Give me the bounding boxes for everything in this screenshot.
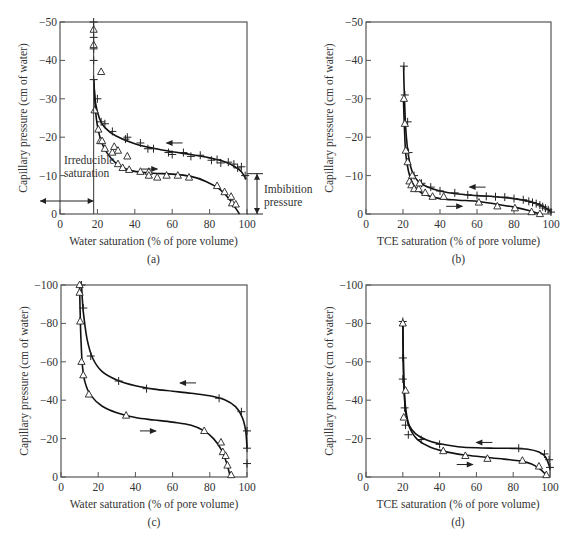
arrowhead-up-icon <box>254 174 260 180</box>
plus-marker <box>237 408 245 416</box>
y-tick-label: −60 <box>345 356 363 368</box>
annotation-text: Imbibition <box>264 183 313 195</box>
triangle-marker <box>163 172 170 179</box>
x-tick-label: 60 <box>471 481 483 493</box>
arrowhead-left-icon <box>166 140 173 146</box>
series-drainage <box>399 317 554 471</box>
x-tick-label: 80 <box>204 218 216 230</box>
y-axis-label: Capillary pressure (cm of water) <box>323 43 336 193</box>
panel-label: (c) <box>148 516 161 529</box>
y-tick-label: −80 <box>40 317 58 329</box>
plus-marker <box>436 440 444 448</box>
y-axis-label: Capillary pressure (cm of water) <box>323 306 336 456</box>
plus-marker <box>243 427 251 435</box>
plus-marker <box>510 195 518 203</box>
triangle-marker <box>124 152 131 159</box>
annotation-irreducible-saturation: Irreduciblesaturation <box>40 22 114 214</box>
x-tick-label: 100 <box>238 218 256 230</box>
x-tick-label: 80 <box>508 218 520 230</box>
x-tick-label: 80 <box>204 481 216 493</box>
plus-marker <box>473 192 481 200</box>
plus-marker <box>101 120 109 128</box>
plus-marker <box>115 377 123 385</box>
y-tick-label: −30 <box>39 93 57 105</box>
capillary-pressure-figure: 0204060801000−10−20−30−40−50Water satura… <box>0 0 573 536</box>
y-tick-label: −50 <box>39 16 57 28</box>
arrowhead-right-icon <box>467 462 474 468</box>
plus-marker <box>243 444 251 452</box>
chart-panel-c: 0204060801000−20−40−60−80−100Water satur… <box>18 279 256 529</box>
triangle-marker <box>95 126 102 133</box>
y-tick-label: −30 <box>345 93 363 105</box>
x-tick-label: 60 <box>167 481 179 493</box>
arrowhead-right-icon <box>88 198 94 204</box>
plus-marker <box>482 192 490 200</box>
arrowhead-left-icon <box>469 184 476 190</box>
y-tick-label: 0 <box>357 208 363 220</box>
x-tick-label: 60 <box>166 218 178 230</box>
x-tick-label: 20 <box>397 218 409 230</box>
fitted-curve <box>403 323 547 477</box>
panel-label: (b) <box>452 253 466 266</box>
triangle-marker <box>80 371 87 378</box>
y-tick-label: −20 <box>39 131 57 143</box>
x-tick-label: 100 <box>541 481 559 493</box>
y-tick-label: −20 <box>345 433 363 445</box>
plus-marker <box>529 198 537 206</box>
x-axis-label: Water saturation (% of pore volume) <box>69 235 238 248</box>
plus-marker <box>519 196 527 204</box>
series-imbibition <box>76 281 235 478</box>
triangle-marker <box>440 193 447 200</box>
triangle-marker <box>85 390 92 397</box>
arrowhead-left-icon <box>40 198 46 204</box>
y-tick-label: −80 <box>345 317 363 329</box>
y-tick-label: 0 <box>52 471 58 483</box>
plus-marker <box>164 149 172 157</box>
y-tick-label: −10 <box>39 170 57 182</box>
series-imbibition <box>400 95 543 217</box>
annotation-text: pressure <box>264 196 302 209</box>
y-axis-label: Capillary pressure (cm of water) <box>17 43 30 193</box>
x-tick-label: 0 <box>363 218 369 230</box>
plus-marker <box>243 460 251 468</box>
triangle-marker <box>76 281 83 288</box>
fitted-curve <box>403 322 550 470</box>
figure-canvas: 0204060801000−10−20−30−40−50Water satura… <box>0 0 573 536</box>
plus-marker <box>179 149 187 157</box>
y-tick-label: −100 <box>34 279 58 291</box>
y-tick-label: −40 <box>40 394 58 406</box>
annotation-text: Irreducible <box>64 154 114 166</box>
plus-marker <box>501 193 509 201</box>
y-tick-label: −50 <box>345 16 363 28</box>
plus-marker <box>150 145 158 153</box>
plus-marker <box>399 375 407 383</box>
arrowhead-left-icon <box>475 439 482 445</box>
triangle-marker <box>78 358 85 365</box>
series-imbibition <box>399 319 550 477</box>
fitted-curve <box>80 285 231 477</box>
x-tick-label: 40 <box>129 218 141 230</box>
chart-panel-b: 0204060801000−10−20−30−40−50TCE saturati… <box>323 16 560 266</box>
x-axis-label: Water saturation (% of pore volume) <box>70 498 239 511</box>
plus-marker <box>213 155 221 163</box>
x-tick-label: 100 <box>238 481 256 493</box>
arrowhead-left-icon <box>179 380 186 386</box>
y-tick-label: −100 <box>339 279 363 291</box>
triangle-marker <box>217 438 224 445</box>
plus-marker <box>464 191 472 199</box>
x-tick-label: 20 <box>92 481 104 493</box>
x-tick-label: 0 <box>58 481 64 493</box>
plus-marker <box>451 189 459 197</box>
plus-marker <box>400 62 408 70</box>
plus-marker <box>525 197 533 205</box>
arrowhead-down-icon <box>254 208 260 214</box>
y-axis-label: Capillary pressure (cm of water) <box>18 306 31 456</box>
y-tick-label: −40 <box>345 54 363 66</box>
y-tick-label: 0 <box>357 471 363 483</box>
x-tick-label: 20 <box>397 481 409 493</box>
annotation-imbibition-pressure: Imbibitionpressure <box>247 174 313 214</box>
triangle-marker <box>98 68 105 75</box>
y-tick-label: −10 <box>345 170 363 182</box>
panel-label: (a) <box>147 253 160 266</box>
arrowhead-right-icon <box>456 203 463 209</box>
